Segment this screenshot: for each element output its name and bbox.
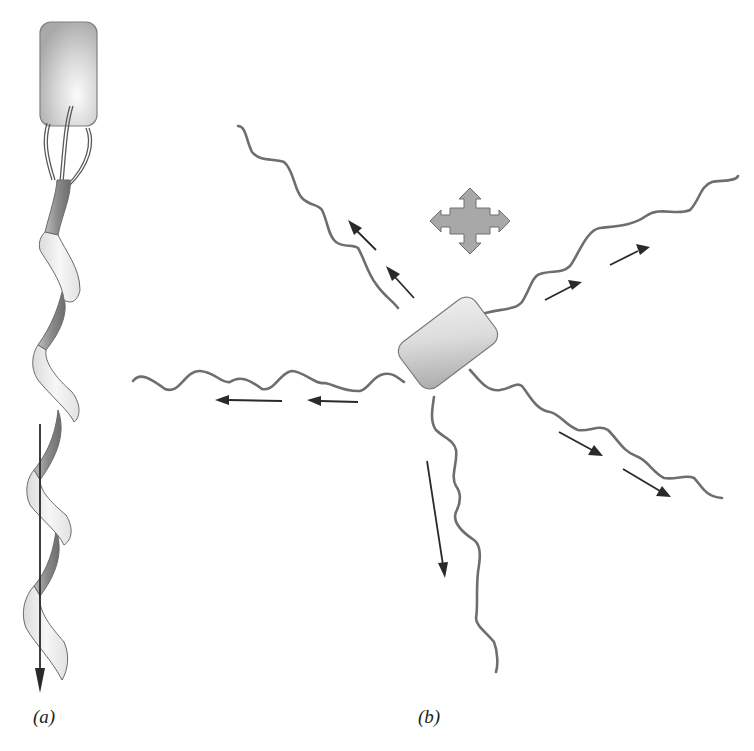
arrow-left-1 bbox=[215, 395, 282, 405]
panel-b bbox=[133, 126, 738, 672]
motion-arrows bbox=[215, 220, 671, 578]
arrow-upper-right-1 bbox=[545, 280, 582, 300]
panel-a bbox=[23, 22, 97, 693]
arrow-down bbox=[427, 461, 448, 578]
panel-label-b: (b) bbox=[418, 706, 440, 728]
arrow-lower-right-1 bbox=[559, 432, 603, 456]
arrow-upper-left-2 bbox=[386, 266, 414, 298]
panel-label-a: (a) bbox=[33, 706, 55, 728]
cell-body-b bbox=[394, 292, 503, 393]
four-way-arrow-icon bbox=[430, 188, 510, 254]
arrow-upper-right-2 bbox=[610, 244, 650, 265]
flagellum-upper-right bbox=[478, 176, 738, 316]
flagellum-upper-left bbox=[238, 126, 398, 308]
flagella-motility-figure: (a) (b) bbox=[0, 0, 754, 751]
flagellum-bottom bbox=[432, 397, 497, 672]
flagellum-lower-right bbox=[470, 370, 722, 498]
flagellum-left bbox=[133, 371, 404, 391]
arrow-lower-right-2 bbox=[623, 469, 671, 497]
arrow-left-2 bbox=[307, 396, 358, 406]
